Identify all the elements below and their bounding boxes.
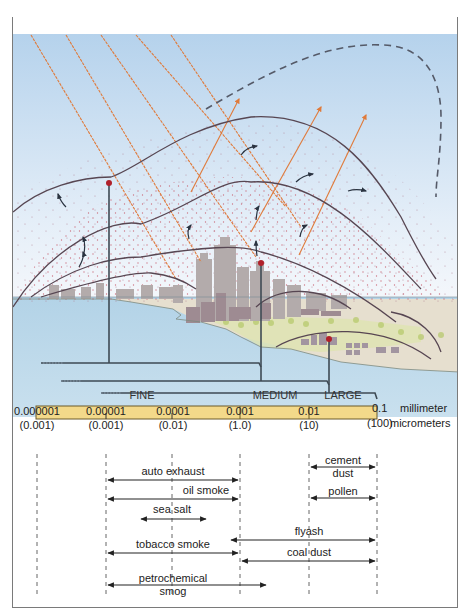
tick-mm: 0.00001 xyxy=(86,405,126,418)
label-flyash: flyash xyxy=(295,525,324,538)
label-cement-dust-2: dust xyxy=(333,467,354,480)
tick-um: (10) xyxy=(299,419,319,432)
label-sea-salt: sea salt xyxy=(153,503,191,516)
label-auto-exhaust: auto exhaust xyxy=(142,465,205,478)
tick-um: (1.0) xyxy=(229,419,252,432)
band-large: LARGE xyxy=(324,389,361,402)
tick-mm: 0.000001 xyxy=(14,405,60,418)
label-petrochemical-smog-2: smog xyxy=(160,585,187,598)
label-oil-smoke: oil smoke xyxy=(183,484,229,497)
tick-mm: 0.01 xyxy=(298,405,319,418)
label-pollen: pollen xyxy=(328,485,357,498)
tick-um: (0.001) xyxy=(20,419,55,432)
unit-micrometers: micrometers xyxy=(390,417,451,430)
figure-frame: FINE MEDIUM LARGE 0.000001 (0.001) 0.000… xyxy=(12,17,458,608)
pollution-dome-illustration xyxy=(13,17,458,608)
tick-um: (100) xyxy=(367,417,393,430)
tick-um: (0.001) xyxy=(89,419,124,432)
tick-mm: 0.0001 xyxy=(156,405,190,418)
label-petrochemical-smog-1: petrochemical xyxy=(139,572,207,585)
label-cement-dust-1: cement xyxy=(325,454,361,467)
label-tobacco-smoke: tobacco smoke xyxy=(136,538,210,551)
label-coal-dust: coal dust xyxy=(287,546,331,559)
tick-um: (0.01) xyxy=(159,419,188,432)
unit-millimeter: millimeter xyxy=(400,402,447,415)
tick-mm: 0.1 xyxy=(372,402,387,415)
tick-mm: 0.001 xyxy=(226,405,254,418)
band-fine: FINE xyxy=(129,389,154,402)
band-medium: MEDIUM xyxy=(253,389,298,402)
